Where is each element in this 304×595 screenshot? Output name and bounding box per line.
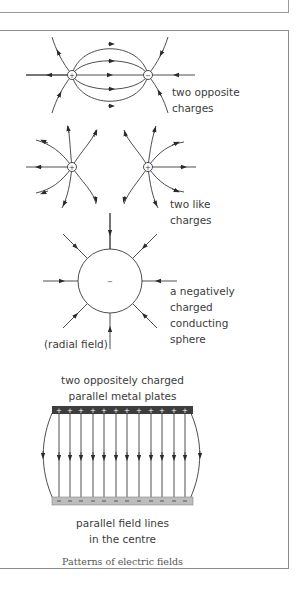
negative-plate [52, 497, 193, 505]
label-line: two like [170, 196, 212, 212]
radial-field-note: (radial field) [44, 336, 108, 352]
svg-text:+: + [69, 164, 75, 172]
electric-field-diagram: +++ +++ +++ +++ + − + + − [0, 0, 304, 595]
svg-text:+: + [78, 407, 84, 415]
like-charges-label: two like charges [170, 196, 212, 228]
svg-text:+: + [145, 164, 151, 172]
parallel-plates-field [43, 411, 200, 499]
sphere-label: a negatively charged conducting sphere [170, 283, 235, 347]
svg-text:+: + [113, 407, 119, 415]
svg-text:+: + [90, 407, 96, 415]
label-line: a negatively [170, 283, 235, 299]
svg-text:−: − [107, 278, 113, 286]
svg-text:−: − [145, 72, 151, 80]
svg-text:+: + [136, 407, 142, 415]
svg-text:+: + [159, 407, 165, 415]
label-line: sphere [170, 331, 235, 347]
plates-label: parallel field lines in the centre [50, 515, 195, 547]
figure-caption: Patterns of electric fields [0, 556, 245, 567]
title-line: parallel metal plates [50, 388, 195, 404]
label-line: parallel field lines [50, 515, 195, 531]
svg-text:+: + [148, 407, 154, 415]
label-line: conducting [170, 315, 235, 331]
svg-text:+: + [56, 407, 62, 415]
svg-text:+: + [124, 407, 130, 415]
title-line: two oppositely charged [50, 372, 195, 388]
label-line: in the centre [50, 531, 195, 547]
label-line: charged [170, 299, 235, 315]
svg-text:+: + [69, 72, 75, 80]
opposite-charges-field [26, 37, 195, 113]
svg-text:+: + [182, 407, 188, 415]
svg-text:+: + [67, 407, 73, 415]
opposite-charges-label: two opposite charges [172, 84, 240, 116]
plates-title: two oppositely charged parallel metal pl… [50, 372, 195, 404]
label-line: charges [172, 100, 240, 116]
svg-text:+: + [171, 407, 177, 415]
svg-text:+: + [101, 407, 107, 415]
label-line: two opposite [172, 84, 240, 100]
label-line: charges [170, 212, 212, 228]
